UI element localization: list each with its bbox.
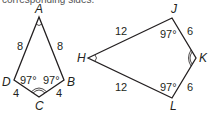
angle-l-measure: 97° xyxy=(160,81,177,93)
vertex-h-label: H xyxy=(77,51,86,65)
vertex-k-label: K xyxy=(199,51,208,65)
kites-diagram: corresponding sides. A D B C 8 8 4 4 97°… xyxy=(0,0,209,113)
angle-c-arc-inner-icon xyxy=(33,90,45,93)
angle-d-measure: 97° xyxy=(20,74,37,86)
angle-j-measure: 97° xyxy=(160,28,177,40)
vertex-a-label: A xyxy=(34,2,43,16)
side-ab-length: 8 xyxy=(57,40,63,52)
cropped-header-text: corresponding sides. xyxy=(2,0,94,5)
angle-b-measure: 97° xyxy=(43,74,60,86)
vertex-d-label: D xyxy=(2,75,11,89)
side-jk-length: 6 xyxy=(187,25,193,37)
side-hl-length: 12 xyxy=(115,81,127,93)
side-lk-length: 6 xyxy=(187,81,193,93)
angle-a-arc-icon xyxy=(36,24,42,26)
angle-k-arc-inner-icon xyxy=(190,52,192,64)
vertex-j-label: J xyxy=(170,2,178,16)
kite-abcd: A D B C 8 8 4 4 97° 97° xyxy=(2,2,75,113)
kite-hjkl-outline xyxy=(88,18,196,98)
vertex-l-label: L xyxy=(170,99,177,113)
angle-h-arc-icon xyxy=(95,55,97,61)
side-dc-length: 4 xyxy=(13,87,19,99)
kite-hjkl: J H K L 12 12 6 6 97° 97° xyxy=(77,2,208,113)
vertex-c-label: C xyxy=(35,99,44,113)
side-hj-length: 12 xyxy=(115,25,127,37)
vertex-b-label: B xyxy=(67,75,75,89)
side-bc-length: 4 xyxy=(56,87,62,99)
side-ad-length: 8 xyxy=(17,40,23,52)
